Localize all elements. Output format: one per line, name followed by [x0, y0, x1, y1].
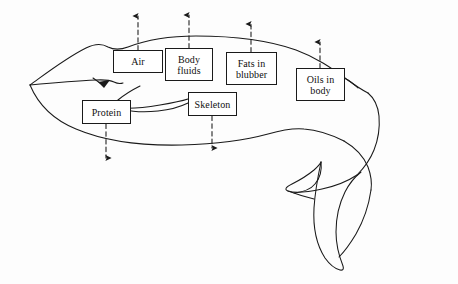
whale-composition-figure: Air Body fluids Fats in blubber Oils in … — [0, 0, 458, 284]
whale-line-art — [0, 0, 458, 284]
eye-marker — [98, 80, 110, 88]
lower-fluke — [314, 162, 361, 270]
tail-stock-lower — [344, 141, 371, 190]
label-oils-in-body[interactable]: Oils in body — [296, 68, 345, 101]
label-air[interactable]: Air — [113, 50, 163, 73]
label-fats-in-blubber[interactable]: Fats in blubber — [226, 52, 277, 85]
lower-fluke-inner — [339, 190, 371, 257]
label-body-fluids[interactable]: Body fluids — [165, 48, 213, 81]
tail-stock-upper — [357, 93, 379, 175]
label-protein[interactable]: Protein — [82, 100, 131, 124]
label-skeleton[interactable]: Skeleton — [188, 92, 237, 116]
